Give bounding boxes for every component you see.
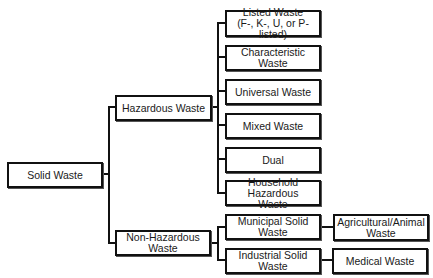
- node-label: Characteristic Waste: [228, 47, 318, 69]
- node-label: Universal Waste: [235, 87, 311, 98]
- node-agricultural-animal-waste: Agricultural/Animal Waste: [333, 214, 429, 241]
- node-medical-waste: Medical Waste: [332, 248, 428, 274]
- waste-classification-diagram: Solid Waste Hazardous Waste Non-Hazardou…: [0, 0, 433, 278]
- node-label: Mixed Waste: [243, 121, 303, 132]
- node-municipal-solid-waste: Municipal Solid Waste: [225, 214, 321, 240]
- node-label: Industrial Solid Waste: [228, 250, 318, 272]
- node-household-hazardous-waste: Household Hazardous Waste: [225, 180, 321, 206]
- node-label: Hazardous Waste: [122, 103, 205, 114]
- node-label: Solid Waste: [27, 170, 83, 181]
- node-mixed-waste: Mixed Waste: [225, 113, 321, 139]
- node-characteristic-waste: Characteristic Waste: [225, 45, 321, 71]
- node-solid-waste: Solid Waste: [7, 162, 103, 188]
- node-label: Household Hazardous Waste: [228, 177, 318, 210]
- node-universal-waste: Universal Waste: [225, 79, 321, 105]
- node-label: Medical Waste: [346, 256, 414, 267]
- node-listed-waste: Listed Waste (F-, K-, U, or P- listed): [225, 10, 321, 37]
- node-label: Non-Hazardous Waste: [126, 232, 200, 254]
- node-label: Dual: [262, 155, 284, 166]
- node-label: Listed Waste (F-, K-, U, or P- listed): [228, 7, 318, 40]
- node-dual: Dual: [225, 147, 321, 173]
- node-industrial-solid-waste: Industrial Solid Waste: [225, 248, 321, 274]
- node-non-hazardous-waste: Non-Hazardous Waste: [115, 230, 211, 256]
- node-label: Municipal Solid Waste: [238, 216, 309, 238]
- node-label: Agricultural/Animal Waste: [337, 217, 425, 239]
- node-hazardous-waste: Hazardous Waste: [115, 95, 212, 121]
